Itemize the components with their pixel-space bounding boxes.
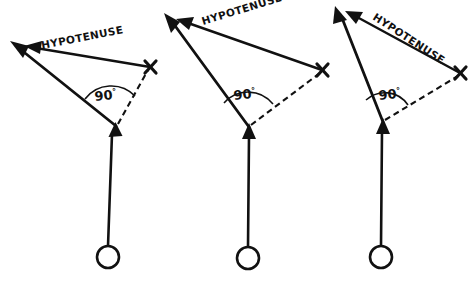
- diagram-2-radius-vector: [173, 23, 249, 127]
- diagram-2-dashed-side: [251, 73, 320, 125]
- diagram-2-group: HYPOTENUSE 90°: [164, 0, 328, 269]
- diagram-1-group: HYPOTENUSE 90°: [10, 23, 156, 268]
- diagram-3-group: HYPOTENUSE 90°: [333, 6, 466, 268]
- diagram-1-angle-label-group: 90°: [94, 87, 118, 104]
- diagram-3-degree-symbol: °: [396, 86, 401, 95]
- diagram-canvas: HYPOTENUSE 90° HYPOTENUSE: [0, 0, 472, 284]
- diagram-3-bob-circle: [370, 246, 392, 268]
- diagram-1-hypotenuse-label: HYPOTENUSE: [40, 23, 124, 51]
- svg-text:90°: 90°: [94, 87, 118, 104]
- diagram-2-degree-symbol: °: [251, 86, 256, 95]
- diagram-2-angle-value: 90: [233, 86, 253, 103]
- diagram-3-x-marker: [455, 67, 466, 79]
- diagram-3-radius-arrowhead: [333, 6, 347, 24]
- diagram-2-angle-label-group: 90°: [233, 86, 257, 103]
- diagram-3-radius-vector: [342, 18, 383, 122]
- diagram-2-bob-circle: [237, 247, 259, 269]
- diagram-1-angle-value: 90: [94, 87, 114, 104]
- vector-diagram-figure: HYPOTENUSE 90° HYPOTENUSE: [0, 0, 472, 284]
- svg-text:90°: 90°: [378, 86, 402, 103]
- diagram-1-dashed-side: [118, 70, 148, 124]
- diagram-1-hypotenuse-vector: [36, 48, 150, 67]
- diagram-3-support-line: [381, 131, 382, 246]
- diagram-3-hypotenuse-label: HYPOTENUSE: [371, 11, 447, 66]
- diagram-1-degree-symbol: °: [112, 87, 117, 96]
- diagram-1-bob-circle: [97, 246, 119, 268]
- diagram-3-angle-value: 90: [378, 86, 398, 103]
- diagram-2-hypotenuse-vector: [188, 23, 322, 70]
- diagram-1-support-line: [108, 134, 112, 246]
- diagram-2-hypotenuse-label: HYPOTENUSE: [200, 0, 283, 27]
- diagram-2-support-line: [248, 136, 249, 247]
- diagram-3-angle-label-group: 90°: [378, 86, 402, 103]
- svg-text:90°: 90°: [233, 86, 257, 103]
